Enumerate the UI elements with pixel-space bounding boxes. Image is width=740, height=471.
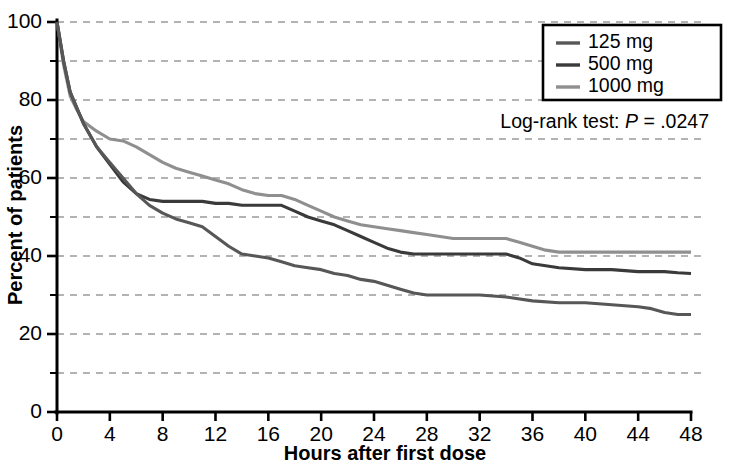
x-tick-label: 8 — [157, 422, 169, 445]
survival-curve-chart: 020406080100 04812162024283236404448 Per… — [0, 0, 740, 471]
y-tick-label: 20 — [19, 321, 42, 344]
legend-label-1000-mg: 1000 mg — [588, 74, 664, 96]
x-axis-title: Hours after first dose — [284, 442, 486, 464]
y-tick-label: 80 — [19, 87, 42, 110]
x-tick-label: 12 — [204, 422, 227, 445]
x-tick-label: 48 — [679, 422, 702, 445]
legend-label-500-mg: 500 mg — [588, 52, 653, 74]
x-tick-label: 40 — [574, 422, 597, 445]
x-tick-label: 36 — [521, 422, 544, 445]
y-axis-title: Percent of patients — [4, 125, 26, 305]
y-tick-label: 0 — [30, 399, 42, 422]
x-tick-label: 0 — [51, 422, 63, 445]
x-tick-label: 44 — [626, 422, 650, 445]
chart-legend[interactable]: 125 mg500 mg1000 mg — [543, 25, 721, 100]
log-rank-annotation: Log-rank test: P = .0247 — [500, 110, 709, 132]
x-tick-label: 4 — [104, 422, 116, 445]
x-tick-label: 16 — [257, 422, 280, 445]
chart-figure: 020406080100 04812162024283236404448 Per… — [0, 0, 740, 471]
y-tick-label: 100 — [7, 9, 42, 32]
legend-label-125-mg: 125 mg — [588, 30, 653, 52]
